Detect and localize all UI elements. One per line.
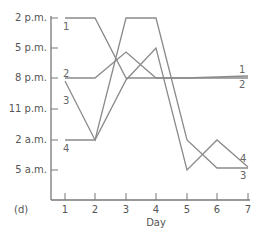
series-end-label-1: 1: [239, 64, 245, 75]
series-lines: [65, 18, 248, 170]
x-tick-label: 6: [214, 204, 220, 215]
x-tick-label: 4: [153, 204, 159, 215]
series-label-3: 3: [63, 95, 69, 106]
y-tick-label: 5 a.m.: [15, 164, 47, 175]
series-end-label-3: 3: [240, 170, 246, 181]
x-tick-label: 7: [245, 204, 251, 215]
series-label-1: 1: [63, 21, 69, 32]
x-axis-label: Day: [146, 217, 166, 228]
x-tick-label: 3: [123, 204, 129, 215]
y-tick-label: 8 p.m.: [15, 72, 47, 83]
y-tick-label: 2 p.m.: [15, 12, 47, 23]
series-labels: 1 2 3 4 1 2 4 3: [63, 21, 246, 181]
series-end-label-2: 2: [239, 79, 245, 90]
y-tick-label: 11 p.m.: [9, 103, 47, 114]
chart: 2 p.m. 5 p.m. 8 p.m. 11 p.m. 2 a.m. 5 a.…: [0, 0, 262, 243]
series-4-line: [65, 48, 248, 170]
series-label-2: 2: [63, 68, 69, 79]
y-tick-label: 5 p.m.: [15, 42, 47, 53]
x-tick-label: 1: [62, 204, 68, 215]
series-end-label-4: 4: [240, 153, 246, 164]
series-2-line: [65, 52, 248, 78]
x-tick-label: 2: [92, 204, 98, 215]
x-ticks: 1 2 3 4 5 6 7: [62, 193, 251, 215]
panel-label: (d): [14, 204, 28, 215]
series-3-line: [65, 18, 248, 168]
series-label-4: 4: [63, 143, 69, 154]
y-tick-label: 2 a.m.: [15, 134, 47, 145]
x-tick-label: 5: [184, 204, 190, 215]
